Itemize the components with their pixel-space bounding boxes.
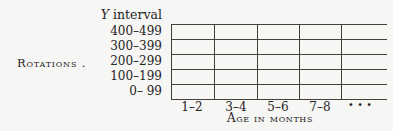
y-axis-label: Rotations .: [17, 56, 86, 70]
chart-grid: [171, 24, 387, 100]
y-interval-title: Y interval: [0, 7, 162, 22]
grid-line-horizontal: [171, 24, 387, 25]
y-tick-label: 300–399: [0, 39, 162, 54]
grid-line-horizontal: [171, 69, 387, 70]
grid-line-vertical: [299, 24, 300, 100]
x-tick-label: 1–2: [181, 101, 202, 114]
grid-line-horizontal: [171, 84, 387, 85]
x-axis-continuation-dots: ...: [348, 94, 376, 108]
grid-line-vertical: [171, 24, 172, 100]
grid-line-vertical: [257, 24, 258, 100]
y-tick-label: 100–199: [0, 69, 162, 84]
grid-line-horizontal: [171, 39, 387, 40]
y-tick-label: 400–499: [0, 24, 162, 39]
y-interval-title-text: interval: [109, 7, 162, 22]
x-axis-label: Age in months: [227, 111, 313, 125]
empty-rotation-frequency-chart: Y interval 400–499 300–399 200–299 100–1…: [0, 0, 393, 131]
y-variable-symbol: Y: [101, 7, 109, 22]
grid-line-vertical: [214, 24, 215, 100]
y-tick-label: 0– 99: [0, 84, 162, 99]
grid-line-horizontal: [171, 54, 387, 55]
grid-line-vertical: [341, 24, 342, 100]
